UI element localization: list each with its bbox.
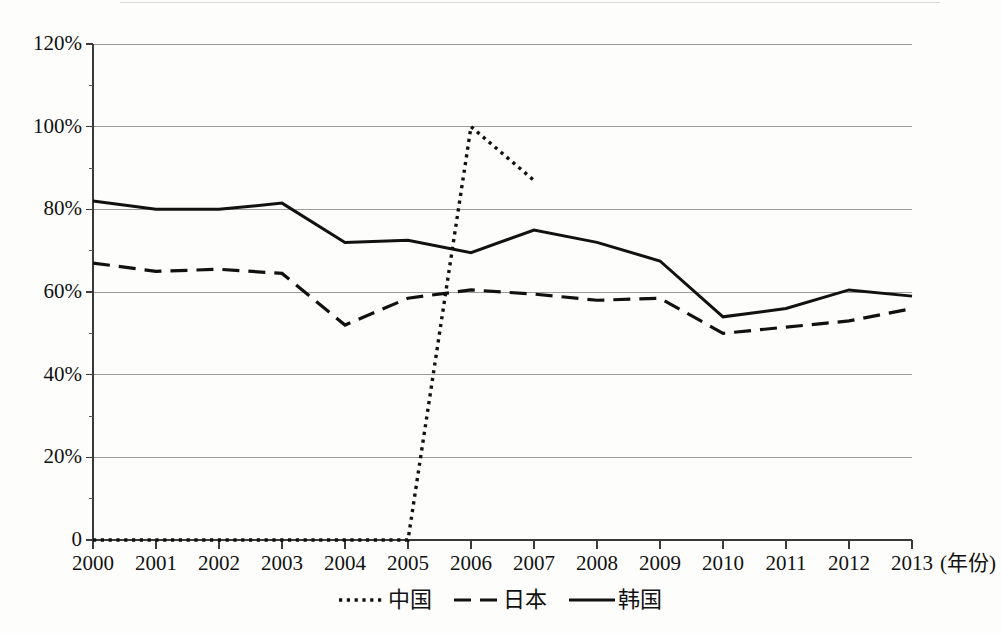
x-axis-tick-label: 2005 xyxy=(378,553,438,574)
y-tick-marks-group xyxy=(86,44,93,540)
y-axis-tick-label: 120% xyxy=(33,33,82,54)
x-axis-tick-label: 2008 xyxy=(567,553,627,574)
x-axis-tick-label: 2010 xyxy=(693,553,753,574)
legend-label: 韩国 xyxy=(618,589,662,611)
legend-line-swatch-solid xyxy=(569,594,615,606)
series-line-3 xyxy=(93,201,912,317)
x-axis-tick-label: 2006 xyxy=(441,553,501,574)
x-axis-tick-label: 2000 xyxy=(63,553,123,574)
x-axis-tick-label: 2002 xyxy=(189,553,249,574)
legend-label: 中国 xyxy=(388,589,432,611)
y-axis-tick-label: 100% xyxy=(33,116,82,137)
x-axis-tick-label: 2007 xyxy=(504,553,564,574)
x-axis-tick-label: 2011 xyxy=(756,553,816,574)
legend-item-2[interactable]: 日本 xyxy=(454,589,547,611)
y-axis-tick-label: 60% xyxy=(44,281,83,302)
x-axis-tick-label: 2012 xyxy=(819,553,879,574)
x-tick-marks-group xyxy=(93,540,912,549)
x-axis-tick-label: 2004 xyxy=(315,553,375,574)
legend-item-1[interactable]: 中国 xyxy=(339,589,432,611)
legend-label: 日本 xyxy=(503,589,547,611)
data-series-group xyxy=(93,127,912,540)
x-axis-title: (年份) xyxy=(940,553,996,574)
gridlines-group xyxy=(93,44,912,540)
chart-legend: 中国日本韩国 xyxy=(0,583,1001,617)
line-chart-figure: 120%100%80%60%40%20%0 200020012002200320… xyxy=(0,0,1001,633)
x-axis-tick-label: 2001 xyxy=(126,553,186,574)
series-line-2 xyxy=(93,263,912,333)
x-axis-tick-label: 2009 xyxy=(630,553,690,574)
legend-item-3[interactable]: 韩国 xyxy=(569,589,662,611)
y-axis-tick-label: 20% xyxy=(44,446,83,467)
x-axis-tick-label: 2003 xyxy=(252,553,312,574)
series-line-1 xyxy=(93,127,534,540)
y-axis-tick-label: 40% xyxy=(44,364,83,385)
legend-line-swatch-dotted xyxy=(339,594,385,606)
y-axis-tick-label: 0 xyxy=(72,529,83,550)
x-axis-tick-label: 2013 xyxy=(882,553,942,574)
plot-canvas xyxy=(0,0,1001,633)
legend-line-swatch-dashed xyxy=(454,594,500,606)
y-axis-tick-label: 80% xyxy=(44,198,83,219)
